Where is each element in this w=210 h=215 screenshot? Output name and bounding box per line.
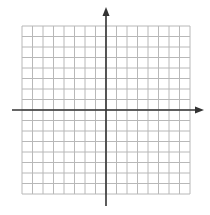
y-axis-arrow-icon <box>103 7 110 16</box>
x-axis-arrow-icon <box>195 107 204 114</box>
coordinate-plane <box>0 0 210 215</box>
